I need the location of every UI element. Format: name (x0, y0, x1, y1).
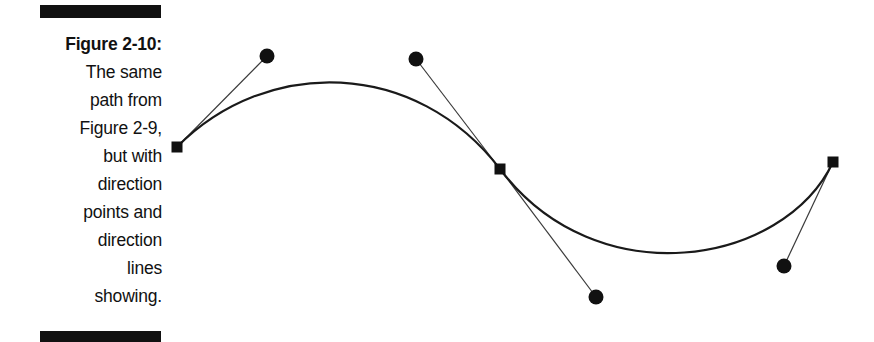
bezier-diagram (0, 0, 874, 342)
direction-line-3 (500, 169, 596, 297)
anchor-middle[interactable] (495, 164, 506, 175)
anchor-end[interactable] (828, 157, 839, 168)
figure-page: Figure 2-10:The samepath fromFigure 2-9,… (0, 0, 874, 342)
direction-point-2[interactable] (409, 52, 424, 67)
bezier-diagram-svg (0, 0, 874, 342)
anchor-start[interactable] (172, 142, 183, 153)
direction-point-3[interactable] (589, 290, 604, 305)
direction-points-group (260, 49, 792, 305)
direction-point-4[interactable] (777, 259, 792, 274)
anchor-points-group (172, 142, 839, 175)
direction-point-1[interactable] (260, 49, 275, 64)
